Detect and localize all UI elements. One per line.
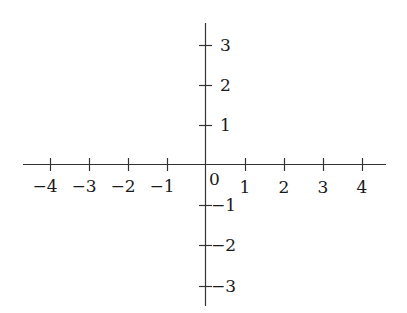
y-tick-label: 3 xyxy=(220,35,231,55)
x-tick-labels: −4 −3 −2 −1 1 2 3 4 xyxy=(32,176,367,197)
x-tick-label: −2 xyxy=(110,176,135,196)
coordinate-plane: −4 −3 −2 −1 1 2 3 4 0 3 2 1 −1 −2 −3 xyxy=(0,0,407,313)
y-tick-labels: 3 2 1 −1 −2 −3 xyxy=(211,35,236,296)
x-tick-label: 1 xyxy=(240,177,251,197)
x-tick-label: 3 xyxy=(318,177,329,197)
y-tick-label: 2 xyxy=(220,75,231,95)
y-tick-label: −2 xyxy=(211,235,236,255)
y-tick-label: −1 xyxy=(211,195,236,215)
y-tick-label: 1 xyxy=(220,115,231,135)
x-tick-label: −4 xyxy=(32,176,57,196)
origin-label: 0 xyxy=(209,169,220,189)
x-tick-label: −3 xyxy=(71,176,96,196)
x-tick-label: −1 xyxy=(149,176,174,196)
x-tick-label: 2 xyxy=(279,177,290,197)
y-tick-label: −3 xyxy=(211,276,236,296)
x-tick-label: 4 xyxy=(357,177,368,197)
